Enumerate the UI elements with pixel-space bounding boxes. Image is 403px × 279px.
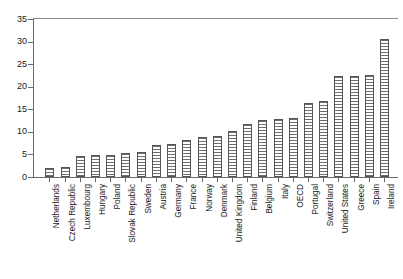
bar — [304, 103, 313, 177]
y-axis-tick-label: 20 — [1, 82, 27, 91]
x-axis-tick — [202, 178, 203, 182]
x-axis-tick — [338, 178, 339, 182]
x-axis-tick — [65, 178, 66, 182]
y-axis-tick-label: 25 — [1, 60, 27, 69]
x-axis-tick — [80, 178, 81, 182]
bar — [152, 145, 161, 177]
x-axis-tick-label: Ireland — [388, 184, 396, 209]
bar-group — [134, 19, 149, 177]
x-axis-tick-label: Portugal — [312, 184, 320, 215]
y-axis-tick-label: 5 — [1, 150, 27, 159]
bar-group — [301, 19, 316, 177]
y-axis-labels: 05101520253035 — [0, 0, 27, 279]
bar — [334, 76, 343, 177]
bar — [45, 168, 54, 177]
bar-group — [179, 19, 194, 177]
bar — [198, 137, 207, 177]
bar — [61, 167, 70, 177]
bar — [76, 156, 85, 177]
bar — [258, 120, 267, 177]
bar-group — [316, 19, 331, 177]
bar-group — [103, 19, 118, 177]
x-axis-tick-label: Austria — [160, 184, 168, 209]
x-axis-tick-label: OECD — [297, 184, 305, 208]
bar — [121, 153, 130, 177]
bar-group — [331, 19, 346, 177]
x-axis-tick-label: Hungary — [99, 184, 107, 215]
bar — [167, 144, 176, 177]
x-axis-tick-label: Finland — [251, 184, 259, 211]
x-axis-tick-label: Denmark — [221, 184, 229, 217]
y-axis-tick-label: 30 — [1, 37, 27, 46]
bar-group — [73, 19, 88, 177]
bar — [365, 75, 374, 177]
x-axis-tick — [186, 178, 187, 182]
x-axis-tick-label: Norway — [206, 184, 214, 212]
x-axis-tick-label: Netherlands — [53, 184, 61, 228]
x-axis-tick — [49, 178, 50, 182]
x-axis-tick — [262, 178, 263, 182]
x-axis-line — [33, 177, 398, 178]
x-axis-tick — [247, 178, 248, 182]
x-axis-tick — [278, 178, 279, 182]
bar-group — [255, 19, 270, 177]
y-axis-tick-label: 10 — [1, 127, 27, 136]
bar-group — [377, 19, 392, 177]
bar-group — [225, 19, 240, 177]
x-axis-tick-label: Germany — [175, 184, 183, 218]
x-axis-tick — [308, 178, 309, 182]
x-axis-tick — [384, 178, 385, 182]
x-axis-tick-label: Luxembourg — [84, 184, 92, 230]
bar-group — [42, 19, 57, 177]
x-axis-tick-label: Spain — [373, 184, 381, 205]
x-axis-tick — [110, 178, 111, 182]
bar — [106, 155, 115, 177]
bar — [289, 118, 298, 177]
x-axis-tick — [323, 178, 324, 182]
plot-area — [33, 19, 398, 177]
x-axis-tick-label: Slovak Republic — [129, 184, 137, 243]
x-axis-tick-label: Czech Republic — [69, 184, 77, 241]
bar-group — [149, 19, 164, 177]
x-axis-tick-label: Switzerland — [327, 184, 335, 226]
y-axis-tick-label: 35 — [1, 15, 27, 24]
x-axis-labels: NetherlandsCzech RepublicLuxembourgHunga… — [33, 184, 398, 279]
x-axis-tick-label: United Kingdom — [236, 184, 244, 242]
x-axis-tick-label: Sweden — [145, 184, 153, 214]
x-axis-tick-label: Belgium — [266, 184, 274, 214]
bar — [91, 155, 100, 177]
bar — [274, 119, 283, 177]
bar — [350, 76, 359, 177]
x-axis-tick — [171, 178, 172, 182]
bar — [380, 39, 389, 177]
x-axis-tick-label: United States — [342, 184, 350, 233]
bar-group — [58, 19, 73, 177]
bar — [213, 136, 222, 177]
bar-group — [362, 19, 377, 177]
x-axis-tick — [141, 178, 142, 182]
x-axis-tick-label: France — [190, 184, 198, 209]
x-axis-tick-label: Poland — [114, 184, 122, 210]
bar-chart: 05101520253035 NetherlandsCzech Republic… — [0, 0, 403, 279]
x-axis-tick — [293, 178, 294, 182]
bar — [319, 101, 328, 177]
bar-group — [118, 19, 133, 177]
x-axis-tick-label: Greece — [358, 184, 366, 211]
x-axis-tick — [354, 178, 355, 182]
x-axis-tick — [217, 178, 218, 182]
bar-group — [347, 19, 362, 177]
bar — [182, 140, 191, 177]
bar-group — [286, 19, 301, 177]
y-axis-tick-label: 15 — [1, 105, 27, 114]
x-axis-tick — [95, 178, 96, 182]
bar-group — [164, 19, 179, 177]
x-axis-tick — [369, 178, 370, 182]
bar-group — [88, 19, 103, 177]
x-axis-tick-label: Italy — [282, 184, 290, 199]
bar — [137, 152, 146, 177]
bar-group — [271, 19, 286, 177]
bar — [243, 124, 252, 177]
x-axis-tick — [232, 178, 233, 182]
y-axis-tick-label: 0 — [1, 173, 27, 182]
x-axis-tick — [156, 178, 157, 182]
